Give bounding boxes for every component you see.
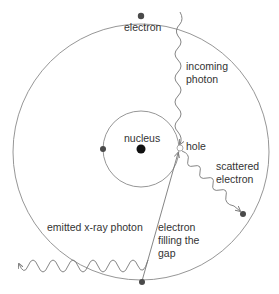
electron-bottom-dot xyxy=(139,279,145,285)
label-scattered-2: electron xyxy=(216,173,254,185)
label-electron-top: electron xyxy=(124,21,162,33)
label-hole: hole xyxy=(186,140,206,152)
label-filling-2: filling the xyxy=(158,234,200,246)
label-scattered-1: scattered xyxy=(216,160,259,172)
label-emitted: emitted x-ray photon xyxy=(47,221,143,233)
label-incoming-2: photon xyxy=(186,73,218,85)
electron-top-dot xyxy=(138,13,144,19)
incoming-photon-wave xyxy=(175,12,182,144)
label-nucleus: nucleus xyxy=(124,132,160,144)
nucleus-dot xyxy=(137,145,146,154)
scattered-electron-dot xyxy=(240,211,246,217)
label-incoming-1: incoming xyxy=(186,60,228,72)
electron-inner-dot xyxy=(100,146,106,152)
label-filling-3: gap xyxy=(158,247,176,259)
hole-marker xyxy=(177,145,183,151)
label-filling-1: electron xyxy=(158,221,196,233)
atom-diagram: electron incoming photon nucleus hole sc… xyxy=(0,0,279,294)
